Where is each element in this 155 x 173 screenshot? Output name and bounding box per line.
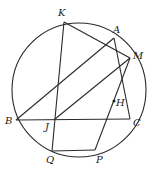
segment-kq — [52, 22, 64, 151]
circumcircle — [12, 23, 146, 157]
segment-bc — [16, 119, 130, 120]
label-a: A — [112, 24, 120, 35]
label-c: C — [133, 117, 141, 128]
label-q: Q — [46, 154, 54, 165]
label-j: J — [43, 121, 50, 132]
label-b: B — [4, 115, 12, 126]
label-k: K — [57, 7, 66, 18]
geometry-diagram: K A M B C J Q P H — [0, 0, 155, 173]
label-p: P — [95, 154, 103, 165]
label-h: H — [115, 97, 125, 108]
segment-qp — [52, 150, 95, 151]
segment-ba — [16, 38, 114, 120]
label-m: M — [132, 50, 144, 61]
